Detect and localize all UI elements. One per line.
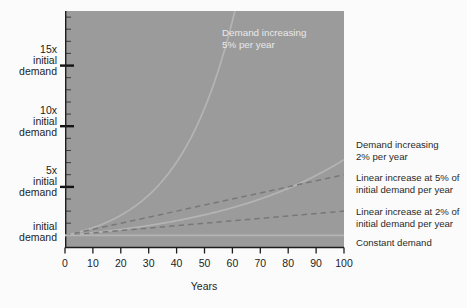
annotation-linear-5pct-line2: initial demand per year	[356, 184, 454, 195]
x-axis-tick-label-100: 100	[335, 257, 353, 269]
annotation-exp-5pct-line2: 5% per year	[222, 39, 276, 50]
annotation-exp-5pct-line1: Demand increasing	[222, 27, 306, 38]
annotation-linear-5pct-line1: Linear increase at 5% of	[356, 172, 460, 183]
x-axis-tick-label-60: 60	[227, 257, 239, 269]
annotation-exp-2pct-line2: 2% per year	[356, 151, 409, 162]
x-axis-tick-label-50: 50	[199, 257, 211, 269]
x-axis-tick-label-30: 30	[143, 257, 155, 269]
x-axis-tick-label-80: 80	[282, 257, 294, 269]
y-axis-label-0-line-2: demand	[19, 65, 57, 77]
y-axis-label-1-line-2: demand	[19, 126, 57, 138]
x-axis-tick-label-0: 0	[62, 257, 68, 269]
x-axis-tick-label-90: 90	[310, 257, 322, 269]
x-axis-tick-label-20: 20	[115, 257, 127, 269]
annotation-constant-line1: Constant demand	[356, 237, 432, 248]
annotation-exp-2pct-line1: Demand increasing	[356, 139, 439, 150]
chart-svg: 15xinitialdemand10xinitialdemand5xinitia…	[0, 0, 467, 308]
demand-growth-chart: 15xinitialdemand10xinitialdemand5xinitia…	[0, 0, 467, 308]
plot-area-background	[65, 11, 344, 247]
annotation-linear-2pct-line1: Linear increase at 2% of	[356, 206, 460, 217]
y-axis-label-3-line-1: demand	[19, 231, 57, 243]
annotation-linear-2pct-line2: initial demand per year	[356, 218, 454, 229]
x-axis-tick-label-40: 40	[171, 257, 183, 269]
x-axis-title: Years	[191, 280, 217, 292]
y-axis-label-2-line-2: demand	[19, 186, 57, 198]
x-axis-tick-label-70: 70	[254, 257, 266, 269]
x-axis-tick-label-10: 10	[87, 257, 99, 269]
